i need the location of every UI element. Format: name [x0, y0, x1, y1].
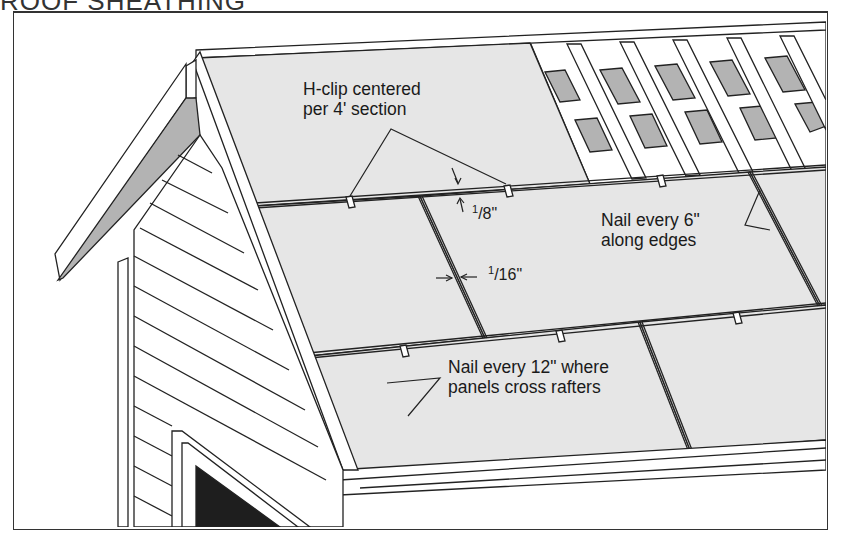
dimension-gap-sixteenth: 1/16" — [488, 264, 522, 284]
roof-sheathing-illustration — [0, 0, 842, 543]
callout-nail-6: Nail every 6" along edges — [601, 210, 700, 250]
callout-hclip: H-clip centered per 4' section — [303, 79, 421, 119]
callout-nail-12: Nail every 12" where panels cross rafter… — [448, 357, 609, 397]
dimension-gap-eighth: 1/8" — [472, 203, 497, 223]
